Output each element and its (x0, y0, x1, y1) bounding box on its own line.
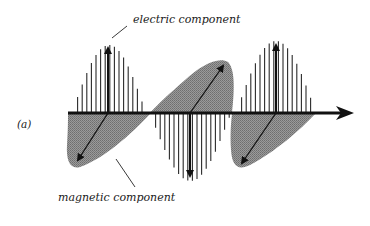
magnetic-component-label: magnetic component (58, 192, 175, 203)
electromagnetic-wave-diagram (0, 0, 370, 226)
electric-leader-line (112, 26, 127, 38)
magnetic-leader-line (116, 159, 135, 187)
panel-label: (a) (17, 119, 31, 130)
magnetic-lobe-1 (67, 114, 150, 168)
magnetic-lobe-3 (231, 114, 315, 167)
electric-component-label: electric component (133, 14, 241, 25)
